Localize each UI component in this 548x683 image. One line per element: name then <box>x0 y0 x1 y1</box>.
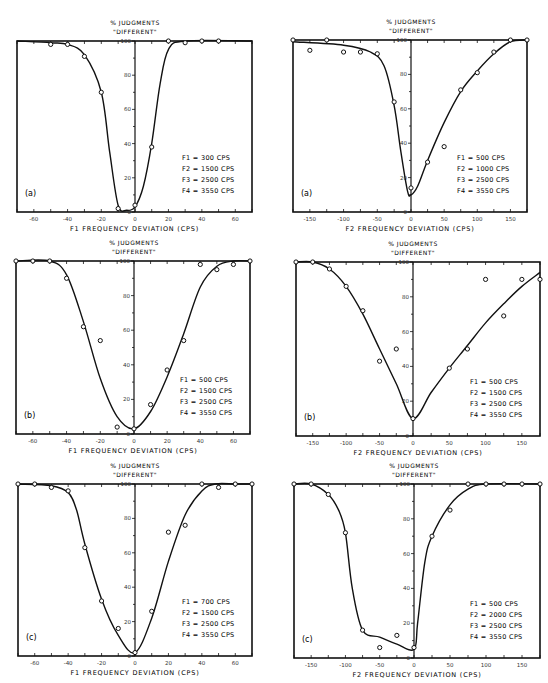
data-point <box>291 38 295 42</box>
x-tick-label: 0 <box>411 440 415 446</box>
data-point <box>49 485 53 489</box>
panel-label: (a) <box>301 189 312 198</box>
x-tick-label: 40 <box>198 660 205 666</box>
y-axis-title-line1: % JUDGMENTS <box>109 239 158 247</box>
data-point <box>448 508 452 512</box>
data-point <box>148 402 152 406</box>
x-tick-label: 0 <box>412 662 416 668</box>
data-point <box>508 38 512 42</box>
data-point <box>520 482 524 486</box>
y-tick-label: 0 <box>127 431 131 437</box>
data-point <box>358 50 362 54</box>
data-point <box>166 39 170 43</box>
x-tick-label: 60 <box>232 660 239 666</box>
y-tick-label: 40 <box>123 362 130 368</box>
x-tick-label: -20 <box>96 438 105 444</box>
legend-entry: F2 = 1500 CPS <box>182 165 235 173</box>
y-tick-label: 60 <box>400 106 407 112</box>
y-axis-title-line2: "DIFFERENT" <box>113 471 157 478</box>
x-tick-label: 100 <box>472 216 483 222</box>
data-point <box>492 50 496 54</box>
x-axis-title: F1 FREQUENCY DEVIATION (CPS) <box>70 225 199 233</box>
data-point <box>81 325 85 329</box>
x-tick-label: 50 <box>447 662 454 668</box>
legend-entry: F2 = 2000 CPS <box>470 611 523 619</box>
data-point <box>341 50 345 54</box>
data-point <box>538 277 542 281</box>
x-tick-label: -60 <box>28 438 37 444</box>
data-point <box>132 427 136 431</box>
figure-canvas: 020406080100-60-40-200204060% JUDGMENTS"… <box>0 0 548 683</box>
x-axis-title: F2 FREQUENCY DEVIATION (CPS) <box>353 449 482 457</box>
data-point <box>292 482 296 486</box>
data-point <box>182 338 186 342</box>
y-tick-label: 20 <box>403 620 410 626</box>
data-point <box>309 482 313 486</box>
x-axis-title: F1 FREQUENCY DEVIATION (CPS) <box>70 669 199 677</box>
x-tick-label: 150 <box>505 216 516 222</box>
data-point <box>520 277 524 281</box>
data-point <box>99 90 103 94</box>
y-axis-title-line1: % JUDGMENTS <box>386 18 435 26</box>
x-tick-label: -100 <box>339 662 352 668</box>
x-tick-label: 60 <box>230 438 237 444</box>
data-point <box>484 482 488 486</box>
y-axis-title-line2: "DIFFERENT" <box>389 27 433 34</box>
x-tick-label: 50 <box>446 440 453 446</box>
x-tick-label: 60 <box>232 216 239 222</box>
y-axis-title-line1: % JUDGMENTS <box>388 240 437 248</box>
y-tick-label: 80 <box>402 294 409 300</box>
data-point <box>165 368 169 372</box>
legend-entry: F4 = 3550 CPS <box>182 631 235 639</box>
chart-panel-5: 020406080100-60-40-200204060% JUDGMENTS"… <box>16 462 254 677</box>
y-axis-title-line2: "DIFFERENT" <box>112 248 156 255</box>
data-point <box>344 284 348 288</box>
y-tick-label: 100 <box>121 38 132 44</box>
y-tick-label: 100 <box>397 37 408 43</box>
y-axis-title-line1: % JUDGMENTS <box>389 462 438 470</box>
legend-entry: F4 = 3550 CPS <box>457 187 510 195</box>
panel-label: (b) <box>24 411 35 420</box>
data-point <box>394 347 398 351</box>
data-point <box>483 277 487 281</box>
data-point <box>200 482 204 486</box>
data-point <box>311 260 315 264</box>
y-tick-label: 0 <box>407 655 411 661</box>
data-point <box>231 262 235 266</box>
x-tick-label: 0 <box>133 660 137 666</box>
legend-entry: F4 = 3550 CPS <box>180 409 233 417</box>
x-tick-label: 20 <box>164 438 171 444</box>
legend-entry: F1 = 500 CPS <box>180 376 228 384</box>
data-point <box>412 645 416 649</box>
y-tick-label: 60 <box>402 329 409 335</box>
data-point <box>442 145 446 149</box>
data-point <box>116 626 120 630</box>
data-point <box>447 366 451 370</box>
legend-entry: F1 = 700 CPS <box>182 598 230 606</box>
legend-entry: F4 = 3550 CPS <box>470 411 523 419</box>
legend-entry: F2 = 1500 CPS <box>180 387 233 395</box>
data-point <box>48 259 52 263</box>
legend-entry: F2 = 1500 CPS <box>470 389 523 397</box>
y-tick-label: 100 <box>121 481 132 487</box>
x-tick-label: 20 <box>165 660 172 666</box>
data-point <box>150 609 154 613</box>
data-point <box>66 489 70 493</box>
data-point <box>377 359 381 363</box>
x-tick-label: 0 <box>133 216 137 222</box>
data-point <box>538 482 542 486</box>
y-tick-label: 80 <box>123 293 130 299</box>
x-tick-label: 0 <box>132 438 136 444</box>
data-point <box>215 268 219 272</box>
legend-entry: F3 = 2500 CPS <box>182 620 235 628</box>
legend-entry: F1 = 500 CPS <box>470 600 518 608</box>
chart-panel-3: 020406080100-60-40-200204060% JUDGMENTS"… <box>14 239 252 455</box>
data-point <box>233 482 237 486</box>
data-point <box>216 485 220 489</box>
y-axis-title-line2: "DIFFERENT" <box>113 28 157 35</box>
x-tick-label: -40 <box>63 216 72 222</box>
y-tick-label: 20 <box>123 396 130 402</box>
data-point <box>502 482 506 486</box>
data-point <box>200 39 204 43</box>
y-axis-title-line2: "DIFFERENT" <box>391 249 435 256</box>
